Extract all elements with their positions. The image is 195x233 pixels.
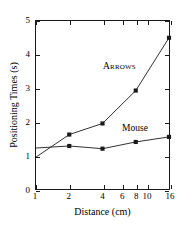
x-tick-label: 8	[134, 192, 139, 201]
x-tick-label: 10	[143, 192, 152, 201]
y-tick-label: 2	[26, 118, 31, 127]
x-tick-label: 1	[33, 192, 38, 201]
x-tick-label: 4	[100, 192, 105, 201]
series-label-mouse: Mouse	[122, 124, 148, 134]
x-tick-label: 2	[67, 192, 72, 201]
x-tick-mark	[171, 21, 172, 25]
y-tick-label: 5	[26, 16, 31, 25]
y-tick-mark	[165, 191, 169, 192]
x-tick-label: 16	[166, 192, 175, 201]
y-tick-label: 1	[26, 152, 31, 161]
y-tick-label: 3	[26, 84, 31, 93]
series-line-arrows	[36, 38, 169, 157]
data-point-marker	[167, 135, 171, 139]
x-tick-label: 6	[120, 192, 125, 201]
y-tick-label: 4	[26, 50, 31, 59]
x-tick-mark	[171, 185, 172, 189]
data-point-marker	[167, 36, 171, 40]
y-tick-label: 0	[26, 186, 31, 195]
data-point-marker	[134, 140, 138, 144]
data-point-marker	[100, 147, 104, 151]
x-axis-title: Distance (cm)	[35, 206, 170, 217]
data-point-marker	[67, 132, 71, 136]
y-tick-mark	[36, 191, 40, 192]
positioning-times-chart: Positioning Times (s) 012345 124681016 A…	[0, 0, 195, 233]
data-point-marker	[67, 144, 71, 148]
y-axis-title-container: Positioning Times (s)	[13, 0, 14, 210]
y-axis-title: Positioning Times (s)	[8, 62, 19, 148]
series-lines	[36, 21, 169, 189]
data-point-marker	[134, 88, 138, 92]
plot-area	[35, 20, 170, 190]
data-point-marker	[100, 121, 104, 125]
series-label-arrows: Arrows	[103, 62, 136, 72]
